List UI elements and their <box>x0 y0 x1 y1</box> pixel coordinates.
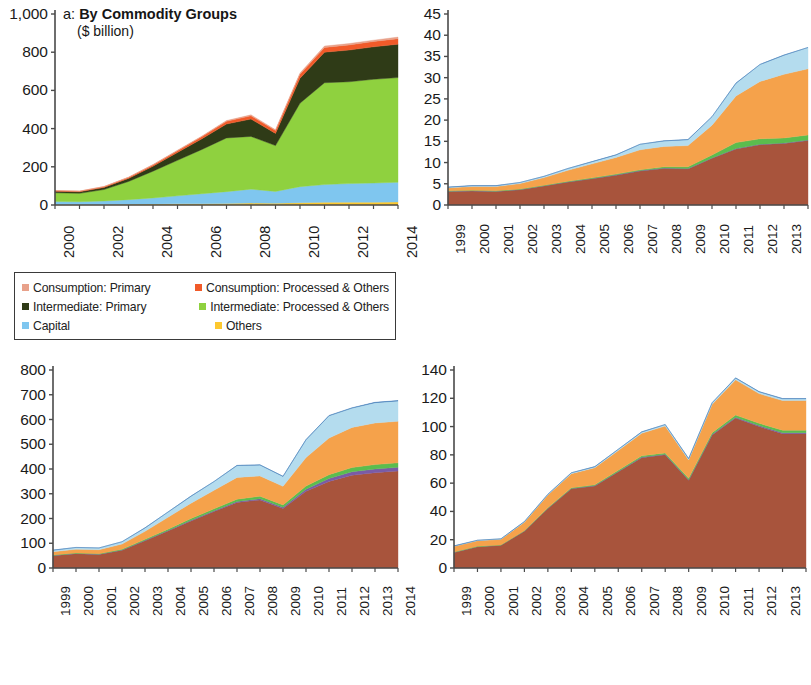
x-tick-label: 2012 <box>765 224 780 254</box>
y-tick-label: 40 <box>424 26 441 44</box>
legend-swatch-icon <box>22 303 29 310</box>
panel-d-capital-goods-imports: d: Capital Goods Imports, By Asian Subre… <box>406 350 811 685</box>
y-tick-label: 30 <box>424 69 441 87</box>
x-tick-label: 2004 <box>573 224 588 254</box>
x-tick-label: 2010 <box>717 224 732 254</box>
x-tick-label: 2012 <box>355 226 371 258</box>
y-tick-label: 5 <box>432 175 441 193</box>
x-tick-label: 2012 <box>357 586 372 616</box>
x-tick-label: 2006 <box>219 586 234 616</box>
x-tick-label: 2002 <box>110 226 126 258</box>
y-tick-label: 35 <box>424 47 441 65</box>
legend-row: Consumption: Primary Consumption: Proces… <box>22 278 389 297</box>
x-tick-label: 2001 <box>501 224 516 254</box>
legend-item-others: Others <box>215 319 262 333</box>
x-tick-label: 2012 <box>764 586 779 616</box>
legend-label: Capital <box>33 319 70 333</box>
x-tick-label: 2000 <box>482 586 497 616</box>
x-tick-label: 2001 <box>506 586 521 616</box>
x-tick-label: 2006 <box>621 224 636 254</box>
x-tick-label: 2007 <box>647 586 662 616</box>
x-tick-label: 2010 <box>311 586 326 616</box>
x-tick-label: 2006 <box>623 586 638 616</box>
y-tick-label: 80 <box>430 446 447 464</box>
legend-label: Intermediate: Primary <box>33 300 146 314</box>
x-tick-label: 2002 <box>525 224 540 254</box>
x-tick-label: 2000 <box>81 586 96 616</box>
y-tick-label: 15 <box>424 132 441 150</box>
x-tick-label: 2009 <box>694 586 709 616</box>
x-tick-label: 2002 <box>127 586 142 616</box>
y-tick-label: 0 <box>39 196 48 214</box>
figure-root: a: By Commodity Groups ($ billion) Consu… <box>0 0 811 685</box>
x-tick-label: 2005 <box>600 586 615 616</box>
area-band-intermediate-processed-others <box>55 78 398 202</box>
x-tick-label: 2008 <box>669 224 684 254</box>
y-tick-label: 800 <box>20 361 46 379</box>
y-tick-label: 0 <box>37 559 46 577</box>
x-tick-label: 1999 <box>58 586 73 616</box>
x-tick-label: 2004 <box>159 226 175 258</box>
x-tick-label: 2002 <box>529 586 544 616</box>
y-tick-label: 100 <box>421 418 447 436</box>
x-tick-label: 2013 <box>380 586 395 616</box>
x-tick-label: 2001 <box>104 586 119 616</box>
legend-row: Capital Others <box>22 316 389 335</box>
panel-a-legend: Consumption: Primary Consumption: Proces… <box>14 272 396 340</box>
x-tick-label: 2008 <box>670 586 685 616</box>
y-tick-label: 140 <box>421 361 447 379</box>
x-tick-label: 2008 <box>265 586 280 616</box>
y-tick-label: 500 <box>20 435 46 453</box>
legend-label: Intermediate: Processed & Others <box>210 300 389 314</box>
x-tick-label: 2004 <box>173 586 188 616</box>
y-tick-label: 200 <box>20 510 46 528</box>
x-tick-label: 2004 <box>576 586 591 616</box>
x-tick-label: 2013 <box>789 224 804 254</box>
x-tick-label: 2011 <box>741 225 756 254</box>
legend-swatch-icon <box>22 284 29 291</box>
x-tick-label: 2005 <box>597 224 612 254</box>
y-tick-label: 0 <box>432 196 441 214</box>
legend-label: Consumption: Primary <box>33 281 151 295</box>
legend-item-intermediate-primary: Intermediate: Primary <box>22 300 199 314</box>
x-tick-label: 2013 <box>788 586 803 616</box>
x-tick-label: 2011 <box>741 587 756 616</box>
legend-item-consumption-primary: Consumption: Primary <box>22 281 195 295</box>
legend-row: Intermediate: Primary Intermediate: Proc… <box>22 297 389 316</box>
y-tick-label: 0 <box>438 559 447 577</box>
y-tick-label: 40 <box>430 502 447 520</box>
legend-item-intermediate-processed: Intermediate: Processed & Others <box>199 300 389 314</box>
x-tick-label: 2006 <box>208 226 224 258</box>
x-tick-label: 1999 <box>459 586 474 616</box>
y-tick-label: 600 <box>20 411 46 429</box>
y-tick-label: 120 <box>421 389 447 407</box>
legend-swatch-icon <box>199 303 206 310</box>
x-tick-label: 2007 <box>645 224 660 254</box>
x-tick-label: 2000 <box>477 224 492 254</box>
x-tick-label: 2010 <box>717 586 732 616</box>
y-tick-label: 1,000 <box>9 5 48 23</box>
x-tick-label: 2003 <box>553 586 568 616</box>
y-tick-label: 10 <box>424 154 441 172</box>
legend-swatch-icon <box>195 284 202 291</box>
y-tick-label: 20 <box>424 111 441 129</box>
x-tick-label: 1999 <box>453 224 468 254</box>
y-tick-label: 100 <box>20 534 46 552</box>
x-tick-label: 2005 <box>196 586 211 616</box>
legend-item-capital: Capital <box>22 319 215 333</box>
y-tick-label: 800 <box>22 43 48 61</box>
y-tick-label: 60 <box>430 474 447 492</box>
x-tick-label: 2011 <box>334 587 349 616</box>
panel-c-intermediate-goods-imports: c: Intermediate Goods Imports, By Asian … <box>0 350 406 685</box>
legend-swatch-icon <box>22 322 29 329</box>
y-tick-label: 200 <box>22 158 48 176</box>
x-tick-label: 2010 <box>306 226 322 258</box>
legend-label: Consumption: Processed & Others <box>206 281 389 295</box>
panel-b-consumption-goods-imports: b: Consumption Goods Imports, By Asian S… <box>406 0 811 345</box>
x-tick-label: 2000 <box>61 226 77 258</box>
x-tick-label: 2009 <box>288 586 303 616</box>
y-tick-label: 45 <box>424 5 441 23</box>
y-tick-label: 400 <box>20 460 46 478</box>
y-tick-label: 25 <box>424 90 441 108</box>
legend-swatch-icon <box>215 322 222 329</box>
